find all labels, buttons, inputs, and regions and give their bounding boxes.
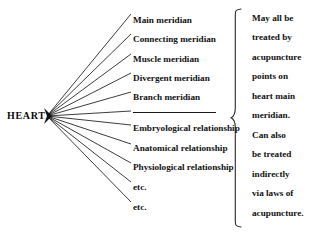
branch-label-anatomical-relationship: Anatomical relationship [133, 144, 228, 153]
annotation-line-8: be treated [252, 150, 291, 159]
fan-line-main-meridian [47, 14, 131, 116]
annotation-line-3: acupuncture [252, 53, 301, 62]
branch-label-divergent-meridian: Divergent meridian [133, 74, 210, 83]
annotation-line-6: meridian. [252, 111, 290, 120]
annotation-line-2: treated by [252, 33, 292, 42]
fan-line-divergent-meridian [47, 73, 131, 116]
branch-label-embryological-relationship: Embryological relationship [133, 124, 240, 133]
branch-label-branch-meridian: Branch meridian [133, 93, 200, 102]
annotation-line-4: points on [252, 72, 288, 81]
annotation-line-10: via laws of [252, 189, 293, 198]
annotation-line-7: Can also [252, 131, 286, 140]
right-curly-brace [231, 9, 241, 227]
branch-label-connecting-meridian: Connecting meridian [133, 35, 216, 44]
annotation-line-1: May all be [252, 14, 293, 23]
fan-line-muscle-meridian [47, 54, 131, 116]
fan-line-etc-2 [47, 116, 131, 202]
branch-label-etc-2: etc. [133, 203, 147, 212]
branch-label-physiological-relationship: Physiological relationship [133, 163, 234, 172]
annotation-line-5: heart main [252, 92, 295, 101]
branch-label-etc-1: etc. [133, 183, 147, 192]
branch-label-main-meridian: Main meridian [133, 16, 192, 25]
fan-line-heart-stem [47, 111, 131, 116]
fan-line-group [47, 14, 131, 202]
branch-label-muscle-meridian: Muscle meridian [133, 55, 199, 64]
annotation-line-9: indirectly [252, 170, 290, 179]
fan-line-etc-1 [47, 116, 131, 182]
diagram-canvas: HEART Main meridian Connecting meridian … [0, 0, 311, 237]
annotation-line-11: acupuncture. [252, 209, 304, 218]
root-node-label: HEART [7, 111, 46, 121]
